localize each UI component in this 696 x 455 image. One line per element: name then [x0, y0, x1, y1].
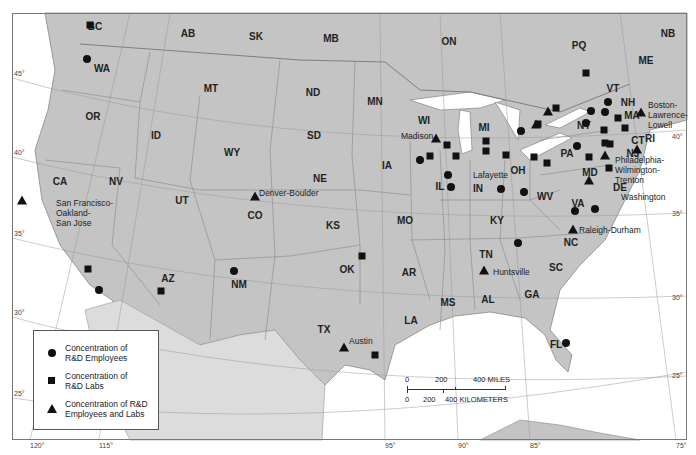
- region-label-nm: NM: [231, 279, 247, 290]
- region-label-ok: OK: [340, 264, 355, 275]
- region-label-or: OR: [86, 111, 101, 122]
- region-label-fl: FL: [550, 339, 562, 350]
- latitude-label: 25°: [672, 372, 683, 379]
- city-label: Raleigh-Durham: [579, 225, 641, 235]
- circle-marker-icon: [416, 156, 424, 164]
- square-icon: [48, 377, 55, 384]
- latitude-label: 45°: [14, 70, 25, 77]
- square-marker-icon: [622, 125, 629, 132]
- triangle-marker-icon: [600, 151, 610, 160]
- square-marker-icon: [606, 165, 613, 172]
- region-label-id: ID: [151, 130, 161, 141]
- region-label-ia: IA: [382, 160, 392, 171]
- region-label-sc: SC: [549, 262, 563, 273]
- latitude-label: 25°: [14, 390, 25, 397]
- region-label-pa: PA: [560, 148, 573, 159]
- region-label-wa: WA: [94, 63, 110, 74]
- square-marker-icon: [544, 160, 551, 167]
- square-marker-icon: [427, 153, 434, 160]
- region-label-az: AZ: [161, 273, 174, 284]
- square-marker-icon: [483, 148, 490, 155]
- city-label: Austin: [349, 336, 373, 346]
- city-label: Philadelphia-Wilmington-Trenton: [615, 155, 664, 185]
- region-label-co: CO: [248, 210, 263, 221]
- triangle-marker-icon: [431, 134, 441, 143]
- region-label-oh: OH: [511, 165, 526, 176]
- region-label-ne: NE: [313, 173, 327, 184]
- circle-marker-icon: [582, 119, 590, 127]
- region-label-la: LA: [404, 315, 417, 326]
- region-label-mt: MT: [204, 83, 218, 94]
- region-label-ga: GA: [525, 289, 540, 300]
- latitude-label: 40°: [14, 149, 25, 156]
- city-label: Boston-Lawrence-Lowell: [648, 100, 688, 130]
- triangle-marker-icon: [531, 120, 541, 129]
- city-label: Huntsville: [493, 267, 530, 277]
- circle-marker-icon: [591, 205, 599, 213]
- region-label-ms: MS: [441, 297, 456, 308]
- circle-marker-icon: [517, 127, 525, 135]
- latitude-label: 35°: [672, 210, 683, 217]
- region-label-wi: WI: [418, 115, 430, 126]
- region-label-ab: AB: [181, 28, 195, 39]
- city-label: Lafayette: [473, 170, 508, 180]
- region-label-wv: WV: [537, 191, 553, 202]
- triangle-marker-icon: [479, 266, 489, 275]
- region-label-ut: UT: [175, 195, 188, 206]
- circle-icon: [48, 349, 56, 357]
- circle-marker-icon: [573, 142, 581, 150]
- longitude-label: 75°: [676, 442, 687, 449]
- circle-marker-icon: [520, 188, 528, 196]
- region-label-al: AL: [481, 294, 494, 305]
- longitude-label: 85°: [530, 442, 541, 449]
- region-label-ky: KY: [490, 215, 504, 226]
- region-label-ar: AR: [402, 267, 416, 278]
- region-label-mn: MN: [367, 96, 383, 107]
- city-label: Madison: [401, 131, 433, 141]
- region-label-tx: TX: [318, 324, 331, 335]
- region-label-pq: PQ: [572, 40, 586, 51]
- circle-marker-icon: [562, 339, 570, 347]
- longitude-label: 90°: [458, 442, 469, 449]
- region-label-il: IL: [436, 181, 445, 192]
- latitude-label: 35°: [14, 230, 25, 237]
- triangle-marker-icon: [543, 107, 553, 116]
- circle-marker-icon: [601, 108, 609, 116]
- region-label-mi: MI: [478, 122, 489, 133]
- latitude-label: 30°: [672, 294, 683, 301]
- square-marker-icon: [601, 127, 608, 134]
- longitude-label: 115°: [99, 442, 113, 449]
- region-label-on: ON: [442, 36, 457, 47]
- triangle-marker-icon: [584, 176, 594, 185]
- square-marker-icon: [87, 22, 94, 29]
- region-label-nb: NB: [661, 28, 675, 39]
- square-marker-icon: [359, 253, 366, 260]
- region-label-nd: ND: [306, 87, 320, 98]
- triangle-marker-icon: [250, 192, 260, 201]
- circle-marker-icon: [514, 239, 522, 247]
- region-label-sk: SK: [249, 31, 263, 42]
- region-label-ks: KS: [326, 220, 340, 231]
- circle-marker-icon: [95, 286, 103, 294]
- square-marker-icon: [583, 70, 590, 77]
- region-label-ca: CA: [53, 176, 67, 187]
- region-label-vt: VT: [607, 83, 620, 94]
- square-marker-icon: [586, 154, 593, 161]
- region-label-nc: NC: [564, 237, 578, 248]
- legend: Concentration ofR&D Employees Concentrat…: [33, 330, 159, 430]
- city-label: Washington: [621, 192, 666, 202]
- region-label-mo: MO: [397, 215, 413, 226]
- latitude-label: 40°: [672, 133, 683, 140]
- region-label-wy: WY: [224, 147, 240, 158]
- circle-marker-icon: [230, 267, 238, 275]
- square-marker-icon: [607, 141, 614, 148]
- circle-marker-icon: [497, 185, 505, 193]
- region-label-tn: TN: [479, 249, 492, 260]
- circle-marker-icon: [587, 107, 595, 115]
- square-marker-icon: [453, 153, 460, 160]
- square-marker-icon: [615, 115, 622, 122]
- latitude-label: 30°: [14, 309, 25, 316]
- region-label-nv: NV: [109, 176, 123, 187]
- longitude-label: 120°: [30, 442, 44, 449]
- square-marker-icon: [85, 266, 92, 273]
